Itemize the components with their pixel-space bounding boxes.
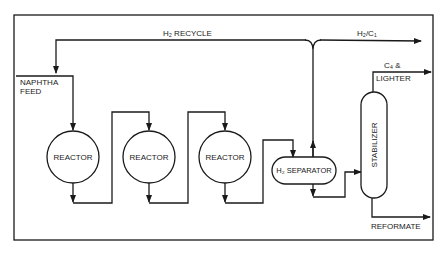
naphtha-feed-label-1: NAPHTHA [20, 78, 59, 87]
h2-recycle-line [56, 40, 306, 73]
h2-junction [305, 40, 321, 50]
h2-separator-label: H₂ SEPARATOR [276, 166, 332, 175]
reactor-2-label: REACTOR [130, 153, 169, 162]
c4-lighter-label-2: LIGHTER [376, 74, 411, 83]
reactor-3-label: REACTOR [206, 153, 245, 162]
reactor-1-label: REACTOR [54, 153, 93, 162]
naphtha-feed-label-2: FEED [20, 87, 42, 96]
reformate-line [372, 198, 430, 217]
reformate-label: REFORMATE [371, 222, 421, 231]
h2-recycle-label: H₂ RECYCLE [163, 29, 212, 38]
c4-lighter-label-1: C₄ & [384, 61, 401, 70]
diagram-canvas: H₂ RECYCLE H₂/C₁ NAPHTHA FEED C₄ & LIGHT… [0, 0, 446, 253]
h2-c1-label: H₂/C₁ [357, 29, 377, 38]
process-flow-diagram: H₂ RECYCLE H₂/C₁ NAPHTHA FEED C₄ & LIGHT… [0, 0, 446, 253]
stabilizer-label: STABILIZER [370, 122, 379, 167]
h2-c1-line [320, 40, 421, 41]
